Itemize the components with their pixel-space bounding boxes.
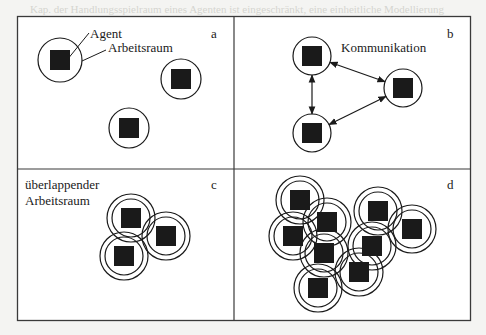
label-overlap-line1: überlappender <box>25 177 100 192</box>
label-workspace: Arbeitsraum <box>108 40 173 55</box>
label-overlap-line2: Arbeitsraum <box>25 193 90 208</box>
panel-letter-c: c <box>211 177 217 192</box>
agent-square <box>349 262 369 282</box>
panel-letter-b: b <box>447 26 454 41</box>
panel-letter-a: a <box>211 26 217 41</box>
agent-square <box>290 190 310 210</box>
agent-square <box>317 212 337 232</box>
panel-letter-d: d <box>447 177 454 192</box>
agent-square <box>156 226 176 246</box>
agent-square <box>302 46 322 66</box>
agent-square <box>368 201 388 221</box>
agent-square <box>393 78 413 98</box>
agent-square <box>283 226 303 246</box>
agent-square <box>402 219 422 239</box>
label-communication: Kommunikation <box>341 40 427 55</box>
multi-agent-diagram: a b c d Agent Arbeitsraum Kommunikation … <box>0 0 486 335</box>
agent-square <box>121 208 141 228</box>
agent-square <box>302 123 322 143</box>
agent-square <box>119 118 139 138</box>
agent-square <box>50 50 70 70</box>
label-agent: Agent <box>90 26 122 41</box>
agent-square <box>171 69 191 89</box>
agent-square <box>314 243 334 263</box>
agent-square <box>308 278 328 298</box>
agent-square <box>362 236 382 256</box>
agent-square <box>114 246 134 266</box>
